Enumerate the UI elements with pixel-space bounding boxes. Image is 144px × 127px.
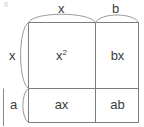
cell-label-ab: ab [96, 98, 139, 111]
cell-x-squared-exponent: 2 [63, 48, 67, 57]
cell-label-x-squared: x2 [28, 49, 95, 62]
top-brace-b [96, 15, 139, 23]
cell-label-bx: bx [96, 49, 139, 62]
side-label-x: x [9, 49, 16, 62]
top-label-x: x [58, 2, 65, 15]
cell-label-ax: ax [28, 98, 95, 111]
top-label-b: b [112, 2, 119, 15]
area-model-diagram: x b x a x2 bx ax ab [0, 0, 144, 127]
side-label-a: a [10, 98, 17, 111]
